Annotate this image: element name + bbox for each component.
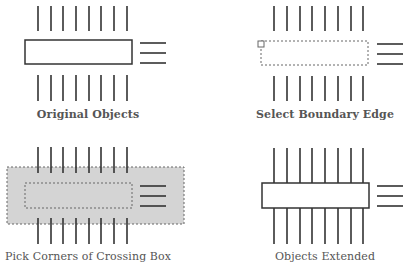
pickbox-icon (258, 41, 264, 47)
panel-original-objects (25, 6, 166, 101)
caption-objects-extended: Objects Extended (275, 250, 375, 263)
caption-original-objects: Original Objects (37, 108, 139, 121)
extend-command-diagram (0, 0, 406, 267)
boundary-rectangle (262, 183, 369, 208)
panel-objects-extended (262, 148, 403, 244)
boundary-rectangle (25, 40, 132, 64)
boundary-rectangle (261, 41, 368, 65)
panel-select-boundary-edge (258, 6, 403, 101)
caption-pick-crossing-box: Pick Corners of Crossing Box (5, 250, 171, 263)
caption-select-boundary-edge: Select Boundary Edge (256, 108, 394, 121)
panel-pick-crossing-box (7, 147, 184, 244)
